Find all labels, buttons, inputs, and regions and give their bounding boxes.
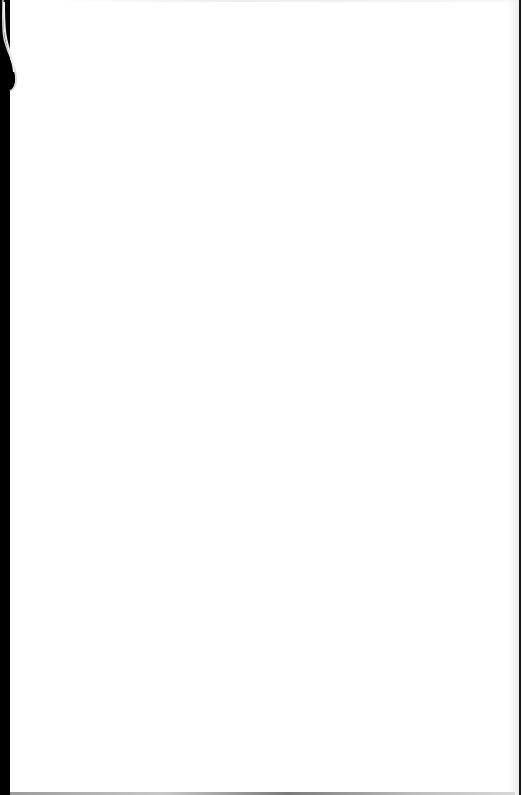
scanned-page <box>0 0 522 795</box>
right-page-edge <box>519 0 521 795</box>
binding-edge <box>0 0 10 795</box>
right-edge-shading <box>509 0 519 795</box>
top-edge-shadow <box>50 0 520 2</box>
blank-page-surface <box>10 0 512 793</box>
page-curl-icon <box>0 0 18 92</box>
